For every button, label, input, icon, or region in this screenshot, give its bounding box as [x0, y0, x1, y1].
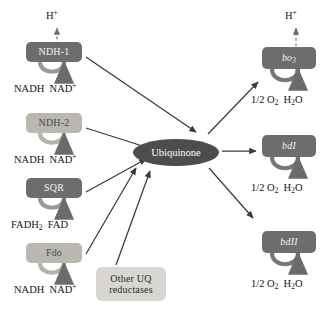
edge-ubiquinone-bdII — [209, 168, 253, 218]
enzyme-box-fdo[interactable]: Fdo — [26, 243, 82, 263]
substrate-loop-sqr — [40, 198, 64, 208]
substrate-label-ndh1: NADH NAD+ — [14, 83, 77, 94]
ubiquinone-label: Ubiquinone — [151, 147, 201, 158]
substrate-loop-ndh2 — [40, 133, 64, 143]
edge-ubiquinone-bo3 — [208, 82, 258, 134]
enzyme-label-bdII: bdII — [280, 237, 297, 247]
substrate-label-sqr: FADH2 FAD — [11, 219, 68, 230]
other-uq-line2: reductases — [109, 284, 153, 296]
edge-ndh1-ubiquinone — [86, 57, 196, 132]
enzyme-box-bdII[interactable]: bdII — [262, 231, 316, 253]
enzyme-box-sqr[interactable]: SQR — [26, 178, 82, 198]
substrate-loop-bdII — [272, 253, 298, 264]
substrate-label-bdII: 1/2 O2 H2O — [251, 278, 302, 289]
enzyme-label-bo3: bo3 — [282, 53, 296, 63]
substrate-loop-bo3 — [272, 69, 298, 80]
substrate-label-bdI: 1/2 O2 H2O — [251, 182, 302, 193]
substrate-loop-ndh1 — [40, 62, 64, 72]
enzyme-box-bdI[interactable]: bdI — [262, 135, 316, 157]
edge-fdo-ubiquinone — [86, 168, 136, 254]
substrate-label-ndh2: NADH NAD+ — [14, 154, 77, 165]
enzyme-label-bdI: bdI — [282, 141, 296, 151]
substrate-loop-fdo — [40, 263, 64, 273]
respiratory-chain-diagram: Ubiquinone NDH-1 H+ NADH NAD+ NDH-2 NADH… — [0, 0, 329, 317]
edge-sqr-ubiquinone — [86, 159, 146, 192]
other-uq-line1: Other UQ — [110, 273, 151, 285]
substrate-label-fdo: NADH NAD+ — [14, 284, 77, 295]
substrate-label-bo3: 1/2 O2 H2O — [251, 94, 302, 105]
enzyme-box-other-uq-reductases[interactable]: Other UQ reductases — [96, 267, 166, 301]
enzyme-label-fdo: Fdo — [46, 248, 62, 258]
enzyme-box-ndh1[interactable]: NDH-1 — [26, 42, 82, 62]
edge-other-ubiquinone — [116, 171, 150, 265]
proton-label-bo3: H+ — [285, 10, 297, 21]
enzyme-box-ndh2[interactable]: NDH-2 — [26, 113, 82, 133]
substrate-loop-bdI — [272, 157, 298, 168]
enzyme-label-ndh2: NDH-2 — [39, 118, 70, 128]
enzyme-box-bo3[interactable]: bo3 — [262, 47, 316, 69]
ubiquinone-node[interactable]: Ubiquinone — [133, 139, 219, 166]
proton-label-ndh1: H+ — [46, 10, 58, 21]
enzyme-label-ndh1: NDH-1 — [39, 47, 70, 57]
enzyme-label-sqr: SQR — [44, 183, 64, 193]
